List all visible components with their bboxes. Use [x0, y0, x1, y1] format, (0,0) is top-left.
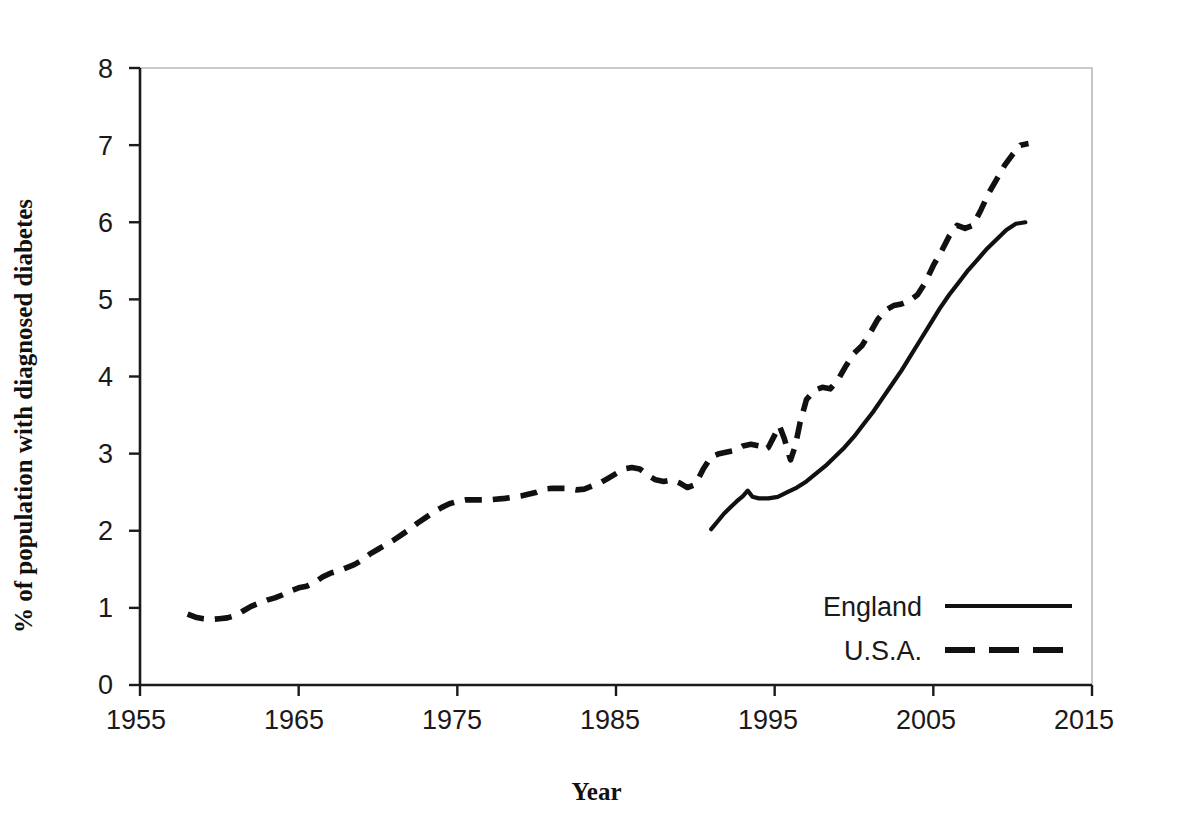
- y-tick-label-7: 7: [98, 131, 113, 162]
- y-tick-label-5: 5: [98, 285, 113, 316]
- series-line-england: [711, 222, 1025, 529]
- y-tick-label-2: 2: [98, 516, 113, 547]
- y-tick-label-1: 1: [98, 593, 113, 624]
- x-tick-label-2005: 2005: [896, 705, 956, 736]
- x-axis-ticks: [140, 685, 1092, 696]
- x-tick-label-1995: 1995: [738, 705, 798, 736]
- series-line-usa: [188, 144, 1029, 620]
- y-axis-ticks: [129, 68, 140, 685]
- x-tick-label-1965: 1965: [264, 705, 324, 736]
- y-tick-label-3: 3: [98, 439, 113, 470]
- x-tick-label-1985: 1985: [580, 705, 640, 736]
- x-tick-label-1955: 1955: [106, 705, 166, 736]
- x-tick-label-1975: 1975: [422, 705, 482, 736]
- x-axis-title: Year: [0, 778, 1193, 806]
- y-axis-title: % of population with diagnosed diabetes: [10, 106, 38, 726]
- plot-frame: [140, 68, 1092, 685]
- legend-label-england: England: [700, 592, 922, 623]
- legend-label-usa: U.S.A.: [700, 636, 922, 667]
- y-tick-label-6: 6: [98, 208, 113, 239]
- y-tick-label-4: 4: [98, 362, 113, 393]
- y-tick-label-0: 0: [98, 670, 113, 701]
- diabetes-prevalence-chart: 8 7 6 5 4 3 2 1 0 1955 1965 1975 1985 19…: [0, 0, 1193, 832]
- x-tick-label-2015: 2015: [1054, 705, 1114, 736]
- y-tick-label-8: 8: [98, 54, 113, 85]
